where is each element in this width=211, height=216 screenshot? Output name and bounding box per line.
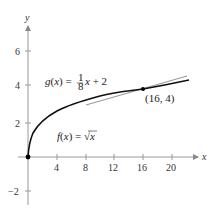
x-tick-label: 16 [137,162,147,173]
y-tick-label: 2 [15,118,20,129]
g-label-suffix: x + 2 [84,75,107,87]
y-tick-label: 6 [15,46,20,57]
chart: x y 4 8 12 16 20 6 4 2 −2 g(x) = 1 8 x +… [0,0,211,216]
x-axis-label: x [201,151,207,162]
g-label: g(x) = [45,75,72,88]
point-label: (16, 4) [145,92,175,105]
x-tick-label: 4 [54,162,59,173]
x-tick-label: 20 [166,162,176,173]
f-label: f(x) = √x [57,130,95,143]
x-tick-label: 8 [83,162,88,173]
y-tick-label: 4 [15,80,20,91]
g-fraction: 1 8 [77,71,84,92]
svg-text:8: 8 [78,80,84,92]
point-16-4 [141,87,145,91]
point-origin [26,155,31,160]
x-tick-label: 12 [108,162,118,173]
y-axis-label: y [24,12,30,23]
y-tick-label: −2 [8,186,19,197]
